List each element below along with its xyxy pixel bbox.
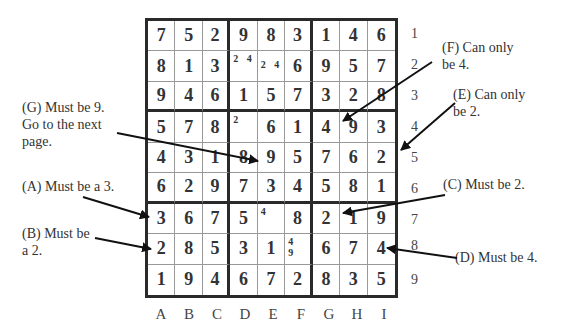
cell-r9c6: 2: [285, 265, 312, 295]
cell-r3c1: 9: [148, 82, 175, 112]
row-label-6: 6: [411, 181, 418, 197]
cell-r2c5: 2 4: [258, 51, 285, 81]
cell-r9c7: 8: [313, 265, 340, 295]
cell-r3c2: 4: [175, 82, 202, 112]
cell-r6c9: 1: [368, 173, 395, 203]
col-label-f: F: [287, 306, 315, 323]
cell-r2c2: 1: [175, 51, 202, 81]
cell-r4c6: 1: [285, 112, 312, 142]
col-label-b: B: [175, 306, 203, 323]
cell-r1c7: 1: [313, 21, 340, 51]
arrow-b-icon: [95, 238, 151, 249]
cell-r6c2: 2: [175, 173, 202, 203]
row-label-2: 2: [411, 57, 418, 73]
cell-r5c4: 8: [230, 143, 257, 173]
arrow-a-icon: [83, 197, 149, 217]
cell-r1c3: 2: [203, 21, 230, 51]
cell-r1c5: 8: [258, 21, 285, 51]
cell-r5c3: 1: [203, 143, 230, 173]
cell-r4c8: 9: [340, 112, 367, 142]
row-label-9: 9: [411, 272, 418, 288]
annotation-b: (B) Must be a 2.: [22, 225, 90, 259]
cell-r8c7: 6: [313, 234, 340, 264]
col-label-h: H: [343, 306, 371, 323]
row-label-5: 5: [411, 150, 418, 166]
annotation-d: (D) Must be 4.: [455, 249, 537, 266]
col-label-c: C: [203, 306, 231, 323]
candidates-r8c6: 4 9: [288, 236, 309, 258]
cell-r5c6: 5: [285, 143, 312, 173]
row-label-8: 8: [411, 238, 418, 254]
cell-r6c8: 8: [340, 173, 367, 203]
cell-r1c8: 4: [340, 21, 367, 51]
col-label-e: E: [259, 306, 287, 323]
cell-r7c2: 6: [175, 204, 202, 234]
cell-r1c6: 3: [285, 21, 312, 51]
cell-r1c2: 5: [175, 21, 202, 51]
annotation-c: (C) Must be 2.: [443, 176, 525, 193]
annotation-e: (E) Can only be 2.: [453, 86, 525, 120]
cell-r4c2: 7: [175, 112, 202, 142]
cell-r8c5: 1: [258, 234, 285, 264]
cell-r2c6: 6: [285, 51, 312, 81]
annotation-a: (A) Must be a 3.: [22, 178, 114, 195]
cell-r8c3: 5: [203, 234, 230, 264]
cell-r2c4: 2 4: [230, 51, 257, 81]
row-label-3: 3: [411, 88, 418, 104]
cell-r8c8: 7: [340, 234, 367, 264]
cell-r7c4: 5: [230, 204, 257, 234]
cell-r3c5: 5: [258, 82, 285, 112]
cell-r1c1: 7: [148, 21, 175, 51]
arrow-e-icon: [401, 103, 455, 150]
cell-r5c8: 6: [340, 143, 367, 173]
row-label-1: 1: [411, 26, 418, 42]
candidates-r4c4: 2: [233, 114, 241, 125]
cell-r6c5: 3: [258, 173, 285, 203]
cell-r4c5: 6: [258, 112, 285, 142]
cell-r5c1: 4: [148, 143, 175, 173]
annotation-g: (G) Must be 9. Go to the next page.: [22, 99, 104, 150]
cell-r9c3: 4: [203, 265, 230, 295]
cell-r5c2: 3: [175, 143, 202, 173]
cell-r7c8: 1: [340, 204, 367, 234]
cell-r5c9: 2: [368, 143, 395, 173]
cell-r5c7: 7: [313, 143, 340, 173]
cell-r9c4: 6: [230, 265, 257, 295]
cell-r6c7: 5: [313, 173, 340, 203]
cell-r1c4: 9: [230, 21, 257, 51]
cell-r9c9: 5: [368, 265, 395, 295]
cell-r3c7: 3: [313, 82, 340, 112]
cell-r7c5: 4: [258, 204, 285, 234]
cell-r2c8: 5: [340, 51, 367, 81]
cell-r8c4: 3: [230, 234, 257, 264]
candidates-r2c4: 2 4: [233, 53, 255, 64]
cell-r6c1: 6: [148, 173, 175, 203]
col-label-i: I: [370, 306, 398, 323]
cell-r3c9: 8: [368, 82, 395, 112]
col-label-d: D: [231, 306, 259, 323]
col-label-a: A: [147, 306, 175, 323]
row-label-7: 7: [411, 212, 418, 228]
cell-r2c3: 3: [203, 51, 230, 81]
cell-r6c3: 9: [203, 173, 230, 203]
cell-r4c3: 8: [203, 112, 230, 142]
cell-r4c4: 2: [230, 112, 257, 142]
cell-r3c3: 6: [203, 82, 230, 112]
cell-r4c9: 3: [368, 112, 395, 142]
cell-r3c6: 7: [285, 82, 312, 112]
cell-r2c7: 9: [313, 51, 340, 81]
cell-r1c9: 6: [368, 21, 395, 51]
cell-r4c7: 4: [313, 112, 340, 142]
cell-r7c3: 7: [203, 204, 230, 234]
cell-r7c6: 8: [285, 204, 312, 234]
cell-r8c2: 8: [175, 234, 202, 264]
col-label-g: G: [315, 306, 343, 323]
cell-r3c4: 1: [230, 82, 257, 112]
annotation-f: (F) Can only be 4.: [442, 39, 514, 73]
cell-r7c1: 3: [148, 204, 175, 234]
candidates-r7c5: 4: [261, 206, 269, 217]
cell-r2c9: 7: [368, 51, 395, 81]
sudoku-board: 7 5 2 9 8 3 1 4 6 8 1 3 2 4 2 4 6 9 5 7 …: [145, 18, 398, 298]
cell-r7c9: 9: [368, 204, 395, 234]
cell-r3c8: 2: [340, 82, 367, 112]
